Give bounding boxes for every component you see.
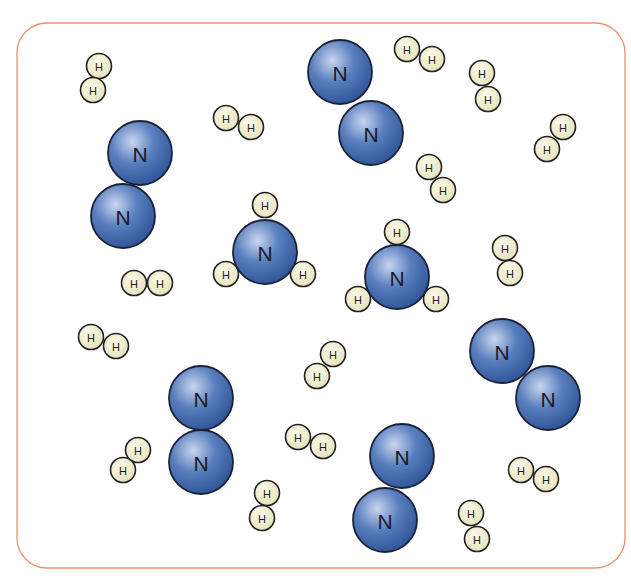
hydrogen-label: H <box>130 278 138 290</box>
hydrogen-label: H <box>247 122 255 134</box>
hydrogen-atom: H <box>111 458 136 483</box>
molecule-nh3: HHHN <box>214 193 316 287</box>
hydrogen-atom: H <box>311 434 336 459</box>
nitrogen-atom: N <box>370 424 434 488</box>
hydrogen-label: H <box>319 441 327 453</box>
hydrogen-label: H <box>294 432 302 444</box>
hydrogen-atom: H <box>385 220 410 245</box>
hydrogen-label: H <box>261 200 269 212</box>
molecule-n2: NN <box>169 366 233 494</box>
molecule-h2: HH <box>111 438 151 483</box>
hydrogen-atom: H <box>459 501 484 526</box>
hydrogen-label: H <box>134 445 142 457</box>
hydrogen-label: H <box>87 332 95 344</box>
hydrogen-label: H <box>89 85 97 97</box>
hydrogen-atom: H <box>321 342 346 367</box>
nitrogen-atom: N <box>108 121 172 185</box>
hydrogen-label: H <box>95 61 103 73</box>
nitrogen-label: N <box>332 62 347 85</box>
hydrogen-label: H <box>119 465 127 477</box>
hydrogen-label: H <box>484 94 492 106</box>
molecule-n2: NN <box>308 40 403 165</box>
molecule-n2: NN <box>353 424 434 552</box>
hydrogen-atom: H <box>214 262 239 287</box>
molecule-h2: HH <box>395 37 445 72</box>
molecule-diagram: NNNNNNNNNNHHHNHHHNHHHHHHHHHHHHHHHHHHHHHH… <box>0 0 631 588</box>
molecule-nh3: HHHN <box>346 220 449 312</box>
hydrogen-label: H <box>517 465 525 477</box>
nitrogen-label: N <box>115 206 130 229</box>
molecule-h2: HH <box>417 155 456 203</box>
hydrogen-atom: H <box>122 271 147 296</box>
hydrogen-label: H <box>506 268 514 280</box>
hydrogen-label: H <box>393 227 401 239</box>
nitrogen-atom: N <box>169 366 233 430</box>
molecule-h2: HH <box>250 481 280 531</box>
molecule-h2: HH <box>509 458 559 492</box>
hydrogen-label: H <box>403 44 411 56</box>
molecule-h2: HH <box>535 115 576 162</box>
molecule-n2: NN <box>470 319 580 430</box>
nitrogen-atom: N <box>470 319 534 383</box>
hydrogen-label: H <box>473 534 481 546</box>
molecule-h2: HH <box>122 271 173 296</box>
hydrogen-atom: H <box>420 47 445 72</box>
hydrogen-atom: H <box>395 37 420 62</box>
nitrogen-label: N <box>257 242 272 265</box>
hydrogen-atom: H <box>104 334 129 359</box>
nitrogen-label: N <box>193 452 208 475</box>
hydrogen-atom: H <box>81 78 106 103</box>
hydrogen-atom: H <box>305 364 330 389</box>
hydrogen-atom: H <box>253 193 278 218</box>
hydrogen-label: H <box>542 474 550 486</box>
hydrogen-atom: H <box>476 87 501 112</box>
hydrogen-label: H <box>478 68 486 80</box>
hydrogen-atom: H <box>417 155 442 180</box>
nitrogen-atom: N <box>91 184 155 248</box>
nitrogen-label: N <box>494 341 509 364</box>
hydrogen-atom: H <box>239 115 264 140</box>
nitrogen-atom: N <box>516 366 580 430</box>
hydrogen-label: H <box>439 185 447 197</box>
nitrogen-label: N <box>132 143 147 166</box>
hydrogen-atom: H <box>87 54 112 79</box>
hydrogen-atom: H <box>148 271 173 296</box>
hydrogen-atom: H <box>79 325 104 350</box>
hydrogen-atom: H <box>534 467 559 492</box>
hydrogen-atom: H <box>255 481 280 506</box>
hydrogen-atom: H <box>470 61 495 86</box>
hydrogen-label: H <box>559 122 567 134</box>
hydrogen-atom: H <box>535 137 560 162</box>
hydrogen-atom: H <box>286 425 311 450</box>
hydrogen-label: H <box>428 54 436 66</box>
hydrogen-atom: H <box>551 115 576 140</box>
molecule-h2: HH <box>286 425 336 459</box>
molecule-h2: HH <box>459 501 490 552</box>
nitrogen-atom: N <box>339 101 403 165</box>
molecule-n2: NN <box>91 121 172 248</box>
nitrogen-atom: N <box>353 488 417 552</box>
hydrogen-label: H <box>263 488 271 500</box>
hydrogen-label: H <box>501 243 509 255</box>
hydrogen-atom: H <box>431 178 456 203</box>
nitrogen-label: N <box>389 267 404 290</box>
nitrogen-label: N <box>540 388 555 411</box>
nitrogen-label: N <box>377 510 392 533</box>
hydrogen-atom: H <box>214 106 239 131</box>
hydrogen-atom: H <box>509 458 534 483</box>
hydrogen-label: H <box>354 294 362 306</box>
hydrogen-label: H <box>156 278 164 290</box>
nitrogen-atom: N <box>365 245 429 309</box>
nitrogen-atom: N <box>233 220 297 284</box>
molecule-h2: HH <box>305 342 346 389</box>
molecule-h2: HH <box>214 106 264 140</box>
hydrogen-atom: H <box>465 527 490 552</box>
hydrogen-label: H <box>329 349 337 361</box>
nitrogen-atom: N <box>308 40 372 104</box>
molecule-h2: HH <box>79 325 129 359</box>
hydrogen-label: H <box>112 341 120 353</box>
nitrogen-label: N <box>363 123 378 146</box>
nitrogen-label: N <box>394 446 409 469</box>
hydrogen-label: H <box>432 294 440 306</box>
hydrogen-label: H <box>543 144 551 156</box>
